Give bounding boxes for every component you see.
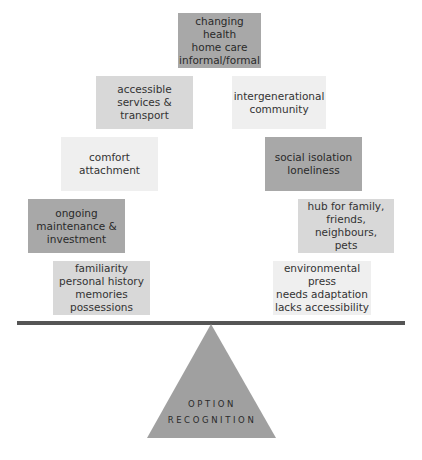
fulcrum-label-line2: RECOGNITION [150,414,274,426]
fulcrum-triangle [0,0,422,460]
fulcrum-label-line1: OPTION [150,398,274,410]
